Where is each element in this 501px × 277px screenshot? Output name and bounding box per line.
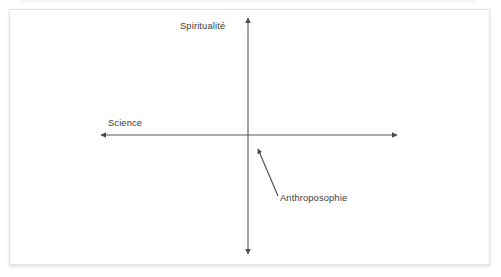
horizontal-axis-label: Science (108, 118, 142, 129)
axes-diagram (0, 0, 501, 277)
anthroposophie-annotation-label: Anthroposophie (280, 193, 347, 204)
screenshot-canvas: Spiritualité Science Anthroposophie (0, 0, 501, 277)
anthroposophie-leader-arrow (258, 149, 278, 196)
vertical-axis-label: Spiritualité (180, 21, 225, 32)
